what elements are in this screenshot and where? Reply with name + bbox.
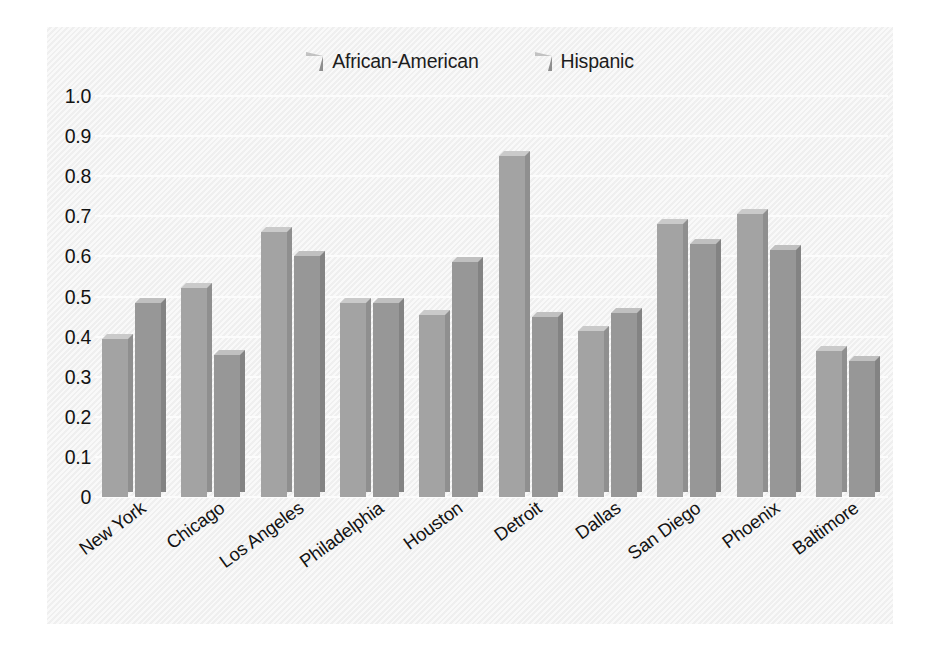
bar — [135, 303, 161, 497]
bar-front-face — [849, 361, 875, 497]
bar — [214, 355, 240, 497]
y-axis-tick-label: 0.1 — [47, 448, 91, 468]
x-axis: New YorkChicagoLos AngelesPhiladelphiaHo… — [95, 497, 888, 617]
bar-front-face — [294, 256, 320, 497]
bar-side-face — [128, 334, 133, 492]
y-axis-tick-label: 0 — [47, 488, 91, 508]
bar — [611, 313, 637, 497]
bar-side-face — [445, 310, 450, 492]
bar-front-face — [102, 339, 128, 497]
bar-side-face — [161, 298, 166, 492]
y-axis-tick-label: 0.4 — [47, 328, 91, 348]
bar — [181, 288, 207, 497]
chart-figure: African-American Hispanic 1.00.90.80.70.… — [47, 27, 893, 624]
legend-swatch-icon — [535, 52, 552, 71]
bar — [532, 317, 558, 497]
y-axis-tick-label: 0.6 — [47, 247, 91, 267]
bar — [578, 331, 604, 497]
y-axis-tick-label: 0.9 — [47, 127, 91, 147]
bar — [816, 351, 842, 497]
bar-side-face — [683, 219, 688, 492]
bar-front-face — [532, 317, 558, 497]
bar-front-face — [419, 315, 445, 497]
bar-side-face — [558, 312, 563, 492]
bar-front-face — [770, 250, 796, 497]
bar-front-face — [690, 244, 716, 497]
bar — [499, 156, 525, 497]
y-axis-tick-label: 0.2 — [47, 408, 91, 428]
bars-layer — [95, 96, 888, 497]
bar-side-face — [287, 227, 292, 492]
bar — [419, 315, 445, 497]
bar-front-face — [373, 303, 399, 497]
bar-side-face — [320, 251, 325, 492]
bar-front-face — [816, 351, 842, 497]
bar-side-face — [716, 239, 721, 492]
bar-side-face — [207, 283, 212, 492]
y-axis-tick-label: 1.0 — [47, 87, 91, 107]
bar-side-face — [366, 298, 371, 492]
bar-side-face — [604, 326, 609, 492]
bar — [102, 339, 128, 497]
bar — [770, 250, 796, 497]
bar-side-face — [399, 298, 404, 492]
bar-front-face — [452, 262, 478, 497]
legend-label: Hispanic — [561, 50, 634, 73]
bar — [261, 232, 287, 497]
y-axis-tick-label: 0.5 — [47, 288, 91, 308]
bar — [452, 262, 478, 497]
legend-label: African-American — [332, 50, 478, 73]
bar-side-face — [763, 209, 768, 492]
bar-front-face — [135, 303, 161, 497]
y-axis-tick-label: 0.3 — [47, 368, 91, 388]
bar-side-face — [842, 346, 847, 492]
bar-front-face — [214, 355, 240, 497]
bar-front-face — [611, 313, 637, 497]
bar — [737, 214, 763, 497]
bar-front-face — [181, 288, 207, 497]
y-axis: 1.00.90.80.70.60.50.40.30.20.10 — [47, 96, 91, 497]
y-axis-tick-label: 0.8 — [47, 167, 91, 187]
bar — [657, 224, 683, 497]
bar-side-face — [240, 350, 245, 492]
bar — [340, 303, 366, 497]
legend-entry-african-american: African-American — [306, 50, 478, 73]
bar-front-face — [499, 156, 525, 497]
bar-side-face — [875, 356, 880, 492]
legend-entry-hispanic: Hispanic — [535, 50, 634, 73]
bar-side-face — [478, 257, 483, 492]
bar-side-face — [525, 151, 530, 492]
y-axis-tick-label: 0.7 — [47, 207, 91, 227]
bar-side-face — [637, 308, 642, 492]
bar — [849, 361, 875, 497]
bar — [373, 303, 399, 497]
bar-front-face — [657, 224, 683, 497]
bar — [690, 244, 716, 497]
bar-side-face — [796, 245, 801, 492]
bar — [294, 256, 320, 497]
bar-front-face — [578, 331, 604, 497]
legend-swatch-icon — [306, 52, 323, 71]
bar-front-face — [737, 214, 763, 497]
chart-legend: African-American Hispanic — [47, 41, 893, 81]
bar-front-face — [340, 303, 366, 497]
bar-front-face — [261, 232, 287, 497]
